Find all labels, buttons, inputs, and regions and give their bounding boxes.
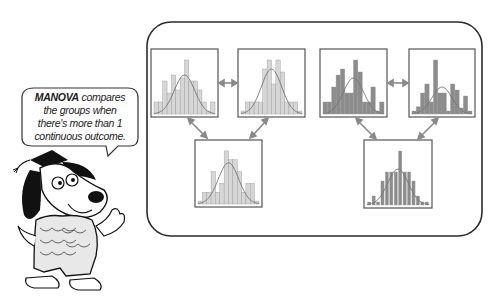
bubble-line-3: there's more than 1	[24, 117, 136, 130]
histogram-bar	[385, 172, 388, 205]
cartoon-dog-mascot	[13, 150, 125, 290]
histogram-bar	[377, 202, 380, 205]
double-arrow-icon	[418, 118, 438, 139]
histogram-top-mid-left	[238, 49, 305, 117]
histogram-bar	[220, 183, 224, 204]
histogram-bar	[176, 90, 180, 114]
histogram-bar	[258, 102, 262, 114]
double-arrow-icon	[356, 118, 376, 139]
histogram-bar	[349, 93, 353, 114]
double-arrow-icon	[219, 80, 237, 86]
histogram-bar	[154, 102, 158, 114]
histogram-bottom-right	[364, 140, 432, 208]
histogram-bar	[229, 160, 233, 204]
histogram-bar	[399, 151, 402, 205]
histogram-bar	[380, 102, 384, 114]
histogram-bar	[215, 192, 219, 204]
histogram-bar	[224, 151, 228, 204]
histogram-bar	[429, 102, 433, 114]
histogram-bar	[285, 102, 289, 114]
histogram-top-left	[151, 49, 218, 117]
histogram-bar	[362, 102, 366, 114]
histogram-bar	[250, 102, 254, 114]
histogram-bottom-left	[195, 140, 262, 207]
histogram-bar	[267, 60, 271, 114]
histogram-bar	[354, 60, 358, 114]
histogram-bar	[442, 93, 446, 114]
histogram-bar	[276, 60, 280, 114]
histogram-bar	[246, 183, 250, 204]
histogram-bar	[185, 60, 189, 114]
histogram-bar	[358, 72, 362, 114]
histogram-bar	[446, 111, 450, 114]
histogram-bar	[323, 102, 327, 114]
histogram-bar	[233, 160, 237, 204]
histogram-bar	[367, 102, 371, 114]
histogram-bar	[425, 84, 429, 114]
histogram-bar	[455, 90, 459, 114]
double-arrow-icon	[250, 118, 268, 138]
double-arrow-icon	[388, 80, 408, 86]
histogram-bar	[211, 102, 215, 114]
comparison-arrows	[188, 80, 438, 139]
histogram-top-mid-right	[320, 49, 387, 117]
double-arrow-icon	[188, 118, 207, 138]
histogram-bar	[272, 84, 276, 114]
speech-bubble-text: MANOVA compares the groups when there's …	[24, 91, 136, 143]
manova-term: MANOVA	[35, 91, 79, 103]
histogram-bar	[254, 102, 258, 114]
bubble-line-1: compares	[79, 91, 125, 103]
histogram-top-right	[409, 49, 475, 117]
histogram-bar	[263, 69, 267, 114]
histogram-bar	[394, 172, 397, 205]
histogram-bar	[336, 75, 340, 114]
histogram-group	[151, 49, 475, 208]
manova-diagram	[0, 0, 502, 299]
histogram-bar	[408, 172, 411, 205]
histogram-bar	[193, 81, 197, 114]
histogram-bar	[345, 93, 349, 114]
histogram-bar	[180, 78, 184, 114]
bubble-line-4: continuous outcome.	[24, 130, 136, 143]
histogram-bar	[433, 60, 437, 114]
histogram-bar	[438, 93, 442, 114]
bubble-line-2: the groups when	[24, 104, 136, 117]
histogram-bar	[289, 102, 293, 114]
